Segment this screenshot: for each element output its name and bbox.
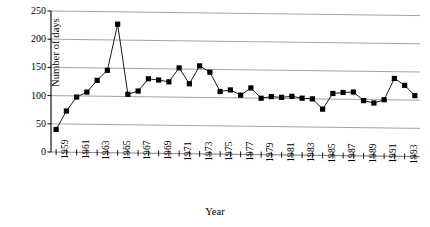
y-axis-tick-label: 50 (16, 119, 46, 129)
chart-title-cutoff (150, 0, 410, 3)
x-axis-tick-label: 1979 (266, 142, 276, 162)
data-point-marker: 1961: 107 (84, 89, 89, 94)
data-point-marker: 1966: 110 (136, 88, 141, 93)
data-point-marker: 1993: 108 (412, 93, 417, 98)
data-point-marker: 1967: 132 (146, 76, 151, 81)
data-point-marker: 1981: 104 (289, 94, 294, 99)
x-axis-tick-label: 1973 (204, 141, 214, 161)
data-point-marker: 1958: 40 (54, 127, 59, 132)
data-point-marker: 1978: 100 (259, 96, 264, 101)
data-point-marker: 1972: 156 (197, 63, 202, 68)
x-axis-tick-label: 1989 (368, 143, 378, 163)
data-point-marker: 1989: 94 (371, 100, 376, 105)
data-point-marker: 1969: 127 (166, 79, 171, 84)
x-axis-tick-label: 1993 (409, 144, 419, 164)
data-point-marker: 1975: 114 (228, 87, 233, 92)
gridline (51, 39, 420, 44)
data-point-marker: 1977: 118 (248, 85, 253, 90)
x-axis-tick-label: 1959 (61, 139, 71, 159)
x-axis-tick-label: 1991 (389, 143, 399, 163)
x-axis-tick-label: 1975 (225, 141, 235, 161)
y-axis-tick-label: 150 (16, 62, 46, 72)
x-axis-tick-label: 1967 (143, 140, 153, 160)
x-axis-tick-label: 1983 (307, 142, 317, 162)
data-point-marker: 1965: 104 (125, 92, 130, 97)
gridline (51, 11, 420, 16)
data-point-marker: 1968: 130 (156, 77, 161, 82)
data-point-marker: 1964: 228 (115, 22, 120, 27)
x-axis-tick-label: 1969 (163, 141, 173, 161)
data-point-marker: 1984: 82 (320, 107, 325, 112)
data-point-marker: 1982: 101 (300, 96, 305, 101)
data-point-marker: 1992: 126 (402, 83, 407, 88)
data-point-marker: 1985: 110 (330, 91, 335, 96)
data-point-marker: 1960: 98 (74, 94, 79, 99)
data-point-marker: 1980: 102 (279, 95, 284, 100)
data-point-marker: 1987: 113 (351, 89, 356, 94)
data-point-marker: 1959: 73 (64, 108, 69, 113)
x-axis-tick-label: 1965 (122, 140, 132, 160)
data-point-marker: 1963: 146 (105, 68, 110, 73)
gridlines-and-data: 1958: 401959: 731960: 981961: 1071962: 1… (51, 11, 420, 152)
x-axis-tick-label: 1981 (286, 142, 296, 162)
data-point-marker: 1986: 112 (341, 90, 346, 95)
data-point-marker: 1979: 103 (269, 94, 274, 99)
x-axis-tick-label: 1987 (348, 143, 358, 163)
chart-figure: Number of days 1958: 401959: 731960: 981… (0, 0, 430, 227)
data-point-marker: 1983: 100 (310, 96, 315, 101)
data-point-marker: 1991: 138 (392, 76, 397, 81)
data-point-marker: 1988: 98 (361, 98, 366, 103)
y-axis-tick-label: 200 (16, 34, 46, 44)
x-axis-tick-label: 1961 (81, 140, 91, 160)
data-point-marker: 1962: 128 (95, 78, 100, 83)
y-axis-tick-label: 250 (16, 6, 46, 16)
data-point-marker: 1971: 124 (187, 81, 192, 86)
x-axis-title: Year (0, 206, 430, 217)
data-point-marker: 1970: 152 (177, 65, 182, 70)
data-point-marker: 1976: 105 (238, 93, 243, 98)
x-axis-tick-label: 1977 (245, 142, 255, 162)
data-point-marker: 1990: 100 (382, 97, 387, 102)
plot-area: Number of days 1958: 401959: 731960: 981… (51, 11, 420, 152)
gridline (51, 124, 420, 129)
data-point-marker: 1974: 111 (218, 89, 223, 94)
data-point-marker: 1973: 145 (207, 70, 212, 75)
x-axis-tick-label: 1971 (184, 141, 194, 161)
x-axis-tick-label: 1985 (327, 143, 337, 163)
y-axis-tick-label: 100 (16, 91, 46, 101)
x-axis-tick-label: 1963 (102, 140, 112, 160)
y-axis-tick-label: 0 (16, 147, 46, 157)
